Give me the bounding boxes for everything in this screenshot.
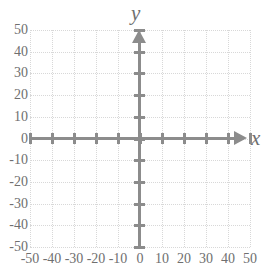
y-axis-tick <box>134 29 145 32</box>
y-axis-label: y <box>131 3 140 24</box>
x-axis-tick <box>161 133 164 144</box>
y-axis-tick <box>134 159 145 162</box>
x-axis-arrowhead-icon <box>234 131 247 145</box>
y-axis-tick <box>134 181 145 184</box>
x-axis-tick <box>227 133 230 144</box>
y-axis-tick-label: -50 <box>0 240 28 254</box>
x-axis-tick <box>95 133 98 144</box>
y-axis-tick-label: 0 <box>0 132 28 146</box>
y-axis-tick-label: 10 <box>0 110 28 124</box>
y-axis-tick <box>134 116 145 119</box>
y-axis-tick-label: 50 <box>0 23 28 37</box>
y-axis-tick <box>134 72 145 75</box>
y-axis-tick <box>134 224 145 227</box>
coordinate-plane: y x -50-40-30-20-10010203040505040302010… <box>0 0 265 272</box>
y-axis-tick-label: -10 <box>0 153 28 167</box>
y-axis-tick <box>134 138 145 141</box>
x-axis-tick-label: 50 <box>230 252 265 266</box>
y-axis-tick-label: -20 <box>0 175 28 189</box>
y-axis-tick-label: 30 <box>0 66 28 80</box>
x-axis-tick <box>29 133 32 144</box>
x-axis-tick <box>249 133 252 144</box>
x-axis-tick <box>117 133 120 144</box>
y-axis-tick-label: -30 <box>0 197 28 211</box>
y-axis-tick-label: -40 <box>0 218 28 232</box>
x-axis-tick <box>51 133 54 144</box>
y-axis-tick-label: 40 <box>0 45 28 59</box>
x-axis-tick <box>183 133 186 144</box>
y-axis-tick-label: 20 <box>0 88 28 102</box>
x-axis-label: x <box>251 128 260 149</box>
x-axis-tick <box>205 133 208 144</box>
y-axis-tick <box>134 203 145 206</box>
x-axis-tick <box>73 133 76 144</box>
y-axis-tick <box>134 94 145 97</box>
y-axis-tick <box>134 246 145 249</box>
y-axis-tick <box>134 51 145 54</box>
